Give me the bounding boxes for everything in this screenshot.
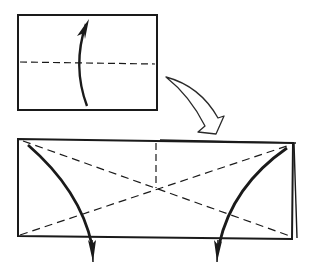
step-2: [18, 139, 297, 262]
step-1: [18, 15, 157, 110]
origami-diagram: [0, 0, 311, 279]
paper-back-edge: [294, 143, 297, 238]
right-arrow-shaft: [217, 240, 218, 262]
left-arrow-shaft: [92, 240, 93, 262]
transition-arrow-icon: [166, 77, 224, 134]
